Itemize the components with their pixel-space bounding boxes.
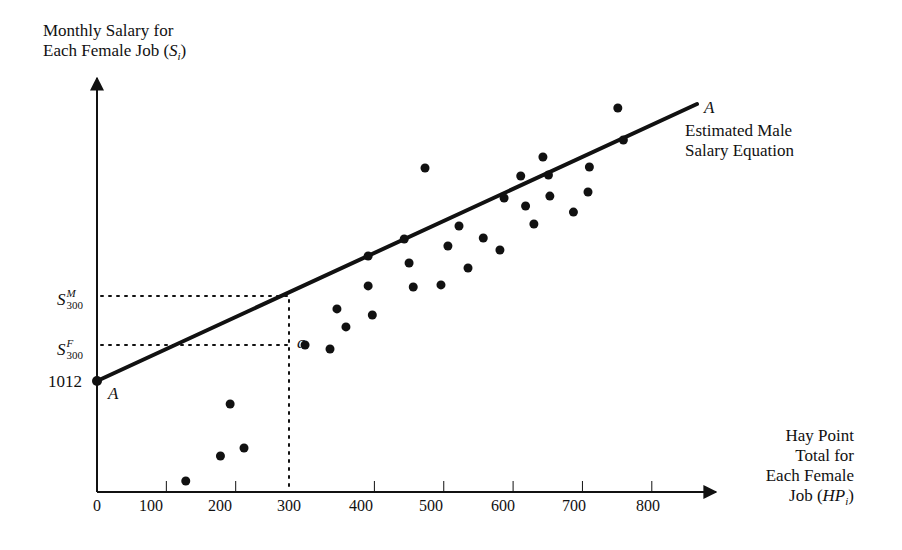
data-point bbox=[516, 172, 525, 181]
data-point bbox=[332, 304, 341, 313]
data-point bbox=[216, 452, 225, 461]
data-point bbox=[409, 283, 418, 292]
data-point bbox=[500, 194, 509, 203]
data-point bbox=[545, 192, 554, 201]
data-point bbox=[226, 400, 235, 409]
data-point bbox=[181, 477, 190, 486]
plot-area bbox=[0, 0, 902, 550]
data-point bbox=[405, 258, 414, 267]
data-point bbox=[613, 103, 622, 112]
data-point bbox=[436, 280, 445, 289]
data-point bbox=[326, 344, 335, 353]
data-point bbox=[443, 241, 452, 250]
data-point bbox=[544, 171, 553, 180]
data-point bbox=[521, 202, 530, 211]
data-point bbox=[495, 246, 504, 255]
data-point bbox=[301, 341, 310, 350]
data-point bbox=[529, 220, 538, 229]
data-point bbox=[455, 222, 464, 231]
data-point bbox=[364, 281, 373, 290]
data-point bbox=[341, 322, 350, 331]
data-point bbox=[583, 188, 592, 197]
reference-lines bbox=[101, 296, 289, 492]
estimated-male-salary-line bbox=[97, 104, 697, 381]
data-point bbox=[421, 163, 430, 172]
data-point bbox=[479, 233, 488, 242]
data-point bbox=[400, 234, 409, 243]
data-point bbox=[364, 251, 373, 260]
x-ticks bbox=[166, 481, 651, 492]
data-point bbox=[368, 310, 377, 319]
intercept-point bbox=[92, 376, 102, 386]
data-point bbox=[585, 163, 594, 172]
data-point bbox=[240, 444, 249, 453]
data-point bbox=[464, 264, 473, 273]
data-point bbox=[538, 153, 547, 162]
scatter-points bbox=[181, 103, 628, 485]
data-point bbox=[569, 208, 578, 217]
data-point bbox=[619, 136, 628, 145]
